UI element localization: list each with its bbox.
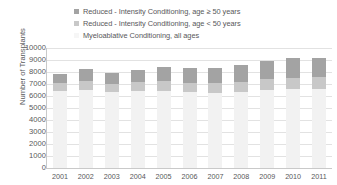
legend-item-label: Reduced - Intensity Conditioning, age ≥ … xyxy=(83,7,240,16)
chart-legend: Reduced - Intensity Conditioning, age ≥ … xyxy=(74,6,324,42)
bar-segment[interactable] xyxy=(286,78,300,89)
x-axis-tick-label: 2010 xyxy=(280,172,306,181)
y-axis-tick-label: 3000 xyxy=(2,128,46,136)
bar-segment[interactable] xyxy=(53,91,67,168)
x-axis-tick-label: 2003 xyxy=(99,172,125,181)
legend-swatch-icon xyxy=(74,33,79,38)
y-axis-tick-label: 0 xyxy=(2,164,46,172)
plot-area xyxy=(47,48,332,168)
bar-segment[interactable] xyxy=(286,89,300,168)
y-axis-tick-label: 10000 xyxy=(2,44,46,52)
bar-segment[interactable] xyxy=(260,79,274,90)
bar-segment[interactable] xyxy=(105,92,119,168)
bar-segment[interactable] xyxy=(183,92,197,168)
bar-segment[interactable] xyxy=(183,83,197,93)
x-axis-baseline xyxy=(47,168,332,169)
legend-swatch-icon xyxy=(74,21,79,26)
bar-segment[interactable] xyxy=(131,91,145,168)
chart-screenshot: Reduced - Intensity Conditioning, age ≥ … xyxy=(0,0,337,185)
x-axis-tick-label: 2002 xyxy=(73,172,99,181)
bar-segment[interactable] xyxy=(208,68,222,83)
x-axis-tick-label: 2007 xyxy=(202,172,228,181)
bar-group[interactable] xyxy=(79,48,93,168)
bar-segment[interactable] xyxy=(312,58,326,78)
bar-segment[interactable] xyxy=(79,81,93,90)
bar-segment[interactable] xyxy=(79,69,93,81)
bar-segment[interactable] xyxy=(286,58,300,78)
legend-item[interactable]: Reduced - Intensity Conditioning, age < … xyxy=(74,18,324,28)
y-axis-tick-label: 8000 xyxy=(2,68,46,76)
bar-group[interactable] xyxy=(260,48,274,168)
bar-group[interactable] xyxy=(131,48,145,168)
bar-segment[interactable] xyxy=(131,70,145,83)
legend-item[interactable]: Reduced - Intensity Conditioning, age ≥ … xyxy=(74,6,324,16)
bar-segment[interactable] xyxy=(131,82,145,91)
x-axis-tick-label: 2011 xyxy=(306,172,332,181)
bar-segment[interactable] xyxy=(234,92,248,168)
bar-group[interactable] xyxy=(53,48,67,168)
y-axis-tick-label: 1000 xyxy=(2,152,46,160)
bar-segment[interactable] xyxy=(53,74,67,83)
bar-segment[interactable] xyxy=(234,65,248,82)
bar-segment[interactable] xyxy=(53,83,67,90)
bar-group[interactable] xyxy=(157,48,171,168)
x-axis-tick-label: 2001 xyxy=(47,172,73,181)
bar-group[interactable] xyxy=(234,48,248,168)
x-axis-tick-label: 2009 xyxy=(254,172,280,181)
legend-swatch-icon xyxy=(74,9,79,14)
x-axis-tick-label: 2005 xyxy=(151,172,177,181)
y-axis-tick-label: 2000 xyxy=(2,140,46,148)
bar-segment[interactable] xyxy=(157,81,171,91)
bar-group[interactable] xyxy=(105,48,119,168)
y-axis-tick-label: 6000 xyxy=(2,92,46,100)
y-axis-tick-label: 5000 xyxy=(2,104,46,112)
x-axis-tick-label: 2006 xyxy=(177,172,203,181)
bar-segment[interactable] xyxy=(157,67,171,81)
bar-group[interactable] xyxy=(312,48,326,168)
bar-group[interactable] xyxy=(286,48,300,168)
bar-segment[interactable] xyxy=(312,89,326,168)
y-axis-tick-label: 7000 xyxy=(2,80,46,88)
legend-item-label: Reduced - Intensity Conditioning, age < … xyxy=(83,19,241,28)
bar-segment[interactable] xyxy=(208,83,222,93)
bar-segment[interactable] xyxy=(260,61,274,80)
bar-segment[interactable] xyxy=(79,90,93,168)
bar-segment[interactable] xyxy=(260,90,274,168)
legend-item-label: Myeloablative Conditioning, all ages xyxy=(83,31,199,40)
bar-segment[interactable] xyxy=(312,77,326,88)
legend-item[interactable]: Myeloablative Conditioning, all ages xyxy=(74,30,324,40)
bar-group[interactable] xyxy=(208,48,222,168)
bar-segment[interactable] xyxy=(105,73,119,84)
y-axis-tick-label: 4000 xyxy=(2,116,46,124)
x-axis-tick-label: 2004 xyxy=(125,172,151,181)
bar-group[interactable] xyxy=(183,48,197,168)
y-axis-tick-labels: 1000090008000700060005000400030002000100… xyxy=(0,48,46,168)
bar-segment[interactable] xyxy=(157,91,171,168)
y-axis-tick-label: 9000 xyxy=(2,56,46,64)
bar-segment[interactable] xyxy=(183,68,197,82)
bar-segment[interactable] xyxy=(234,82,248,92)
x-axis-tick-label: 2008 xyxy=(228,172,254,181)
x-axis-tick-labels: 2001200220032004200520062007200820092010… xyxy=(47,170,332,184)
bar-segment[interactable] xyxy=(105,84,119,92)
bar-segment[interactable] xyxy=(208,93,222,168)
